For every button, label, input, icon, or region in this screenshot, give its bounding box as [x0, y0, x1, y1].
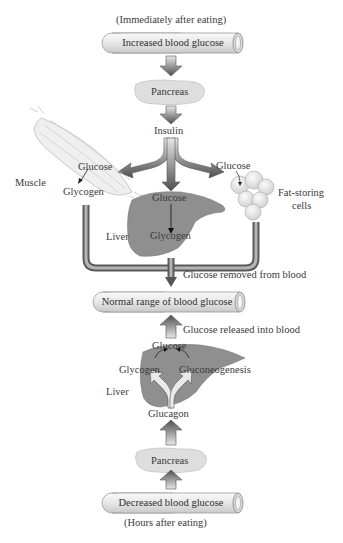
- arrow-from-liver-bottom: [160, 315, 182, 338]
- glucose-released-label: Glucose released into blood: [183, 325, 300, 336]
- glucagon-label: Glucagon: [148, 409, 189, 420]
- fat-glucose-label: Glucose: [216, 161, 250, 172]
- liver-bottom-label: Liver: [106, 387, 129, 398]
- pancreas-top-label: Pancreas: [151, 87, 188, 98]
- liver-bottom-glycogen-label: Glycogen: [119, 365, 160, 376]
- fat-cells-label-line1: Fat-storing: [278, 188, 324, 199]
- arrow-to-normal: [165, 277, 177, 287]
- liver-top-glucose-label: Glucose: [152, 193, 186, 204]
- top-caption: (Immediately after eating): [116, 15, 226, 26]
- liver-top-label: Liver: [106, 232, 129, 243]
- decreased-glucose-label: Decreased blood glucose: [112, 498, 230, 509]
- fat-cells-label-line2: cells: [292, 201, 311, 212]
- pancreas-bottom-label: Pancreas: [151, 456, 188, 467]
- normal-glucose-label: Normal range of blood glucose: [97, 297, 237, 308]
- insulin-branches: [118, 138, 224, 191]
- bottom-caption: (Hours after eating): [124, 518, 207, 529]
- arrow-to-pancreas-top: [160, 56, 182, 76]
- gluconeogenesis-label: Gluconeogenesis: [179, 365, 251, 376]
- fat-cells-shape: [231, 171, 274, 220]
- insulin-label: Insulin: [154, 126, 183, 137]
- liver-bottom-glucose-label: Glucose: [152, 341, 186, 352]
- arrow-to-glucagon: [160, 420, 182, 445]
- arrow-to-insulin: [160, 106, 182, 124]
- liver-top-glycogen-label: Glycogen: [150, 231, 191, 242]
- muscle-glucose-label: Glucose: [78, 162, 112, 173]
- glucose-removed-label: Glucose removed from blood: [183, 270, 306, 281]
- muscle-glycogen-label: Glycogen: [63, 187, 104, 198]
- muscle-label: Muscle: [15, 178, 46, 189]
- increased-glucose-label: Increased blood glucose: [118, 38, 228, 49]
